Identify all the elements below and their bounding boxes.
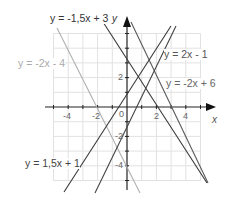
- y-tick-label: 2: [118, 73, 123, 82]
- x-axis-label: x: [212, 115, 217, 125]
- origin-label: 0: [119, 110, 124, 119]
- y-tick-label: -4: [115, 161, 123, 170]
- x-tick-label: -4: [63, 112, 71, 121]
- y-tick-label: -2: [115, 132, 123, 141]
- line-neg2x-plus6: [131, 22, 208, 183]
- label-line-neg2x-plus6: y = -2x + 6: [166, 78, 216, 89]
- x-axis-arrow-icon: [206, 103, 216, 111]
- x-tick-label: 4: [183, 112, 188, 121]
- label-line-neg2x-minus4: y = -2x - 4: [18, 58, 65, 69]
- label-line-2x-minus1: y = 2x - 1: [164, 49, 207, 60]
- y-axis-label: y: [112, 14, 117, 24]
- x-tick-label: -2: [92, 112, 100, 121]
- x-tick-label: 2: [154, 112, 159, 121]
- line-neg1.5x-plus3: [103, 22, 207, 183]
- label-line-1.5x-plus1: y = 1,5x + 1: [25, 158, 80, 169]
- coordinate-plane: [0, 0, 232, 205]
- label-line-neg1.5x-plus3: y = -1,5x + 3: [50, 13, 108, 24]
- y-axis-arrow-icon: [123, 16, 131, 27]
